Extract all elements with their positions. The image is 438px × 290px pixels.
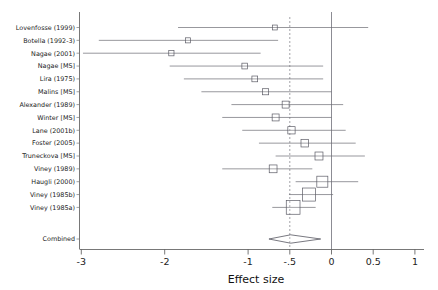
effect-size-marker (186, 38, 191, 43)
study-label: Botella (1992-3) (23, 37, 75, 45)
x-tick-group: -3-2-1-.500.51 (77, 250, 418, 268)
x-axis-tick-label: -3 (77, 256, 86, 267)
x-axis-tick-label: -2 (160, 256, 169, 267)
effect-size-marker (272, 114, 279, 121)
x-axis-tick-label: 0 (328, 256, 334, 267)
study-label-group: Lovenfosse (1999)Botella (1992-3)Nagae (… (16, 24, 75, 212)
study-label: Nagae (2001) (31, 50, 75, 58)
forest-plot-canvas: Lovenfosse (1999)Botella (1992-3)Nagae (… (0, 0, 438, 290)
effect-size-marker (252, 76, 258, 82)
effect-size-marker (272, 25, 277, 30)
effect-size-marker (169, 51, 174, 56)
study-label: Winter [MS] (37, 114, 75, 122)
effect-size-marker (242, 63, 248, 69)
study-label: Nagae [MS] (38, 62, 75, 70)
study-label: Viney (1985b) (30, 191, 75, 199)
x-axis-tick-label: 1 (412, 256, 418, 267)
x-axis-title: Effect size (228, 273, 285, 286)
effect-size-marker (301, 139, 309, 147)
combined-effect-diamond (269, 235, 321, 243)
study-label: Haugli (2000) (31, 178, 75, 186)
study-label: Lane (2001b) (32, 127, 75, 135)
study-label: Malins [MS] (38, 88, 75, 96)
study-label: Viney (1989) (34, 165, 75, 173)
combined-label: Combined (43, 235, 75, 243)
effect-size-marker (302, 188, 315, 201)
effect-size-marker (315, 152, 323, 160)
label-tick-group (77, 28, 80, 208)
study-rows (83, 25, 368, 214)
x-axis-tick-label: 0.5 (366, 256, 381, 267)
study-label: Foster (2005) (32, 139, 75, 147)
effect-size-marker (269, 165, 277, 173)
effect-size-marker (288, 127, 295, 134)
study-label: Lovenfosse (1999) (16, 24, 75, 32)
effect-size-marker (263, 89, 269, 95)
effect-size-marker (282, 101, 289, 108)
effect-size-marker (317, 176, 328, 187)
axis-group (80, 12, 425, 250)
study-label: Truneckova [MS] (21, 152, 75, 160)
x-axis-tick-label: -.5 (284, 256, 297, 267)
effect-size-marker (286, 201, 300, 215)
x-axis-tick-label: -1 (243, 256, 252, 267)
study-label: Alexander (1989) (19, 101, 75, 109)
combined-row: Combined (43, 235, 321, 244)
study-label: Lira (1975) (40, 75, 75, 83)
study-label: Viney (1985a) (30, 204, 75, 212)
forest-plot: Lovenfosse (1999)Botella (1992-3)Nagae (… (0, 0, 438, 290)
